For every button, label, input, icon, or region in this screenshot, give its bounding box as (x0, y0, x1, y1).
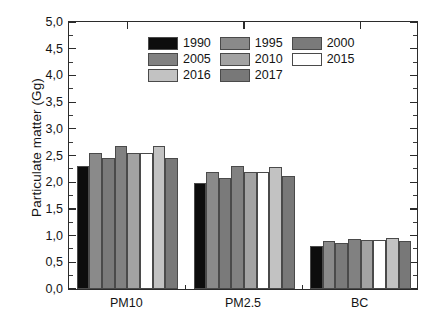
legend-entry[interactable]: 2005 (148, 53, 211, 66)
y-minor-tick-mark (69, 195, 73, 196)
legend-swatch-icon (148, 53, 178, 66)
bar (219, 178, 232, 289)
legend-swatch-icon (220, 69, 250, 82)
y-tick-label: 3,0 (46, 122, 63, 136)
y-tick-mark (69, 75, 76, 76)
y-minor-tick-mark (69, 115, 73, 116)
legend-swatch-icon (220, 53, 250, 66)
legend-entry[interactable]: 1990 (148, 37, 211, 50)
legend-label: 2005 (183, 53, 211, 66)
y-minor-tick-mark (69, 248, 73, 249)
y-tick-label: 1,5 (46, 202, 63, 216)
y-minor-tick-mark-right (413, 222, 417, 223)
bar (257, 172, 270, 289)
y-tick-label: 1,0 (46, 229, 63, 243)
y-minor-tick-mark-right (413, 168, 417, 169)
y-tick-mark (69, 128, 76, 129)
y-minor-tick-mark-right (413, 88, 417, 89)
y-tick-label: 2,5 (46, 149, 63, 163)
y-tick-label: 3,5 (46, 95, 63, 109)
legend-entry[interactable]: 2016 (148, 69, 211, 82)
x-minor-tick-mark (185, 285, 186, 289)
y-minor-tick-mark (69, 88, 73, 89)
y-tick-mark (69, 288, 76, 289)
y-tick-label: 4,0 (46, 68, 63, 82)
y-tick-mark (69, 235, 76, 236)
legend-swatch-icon (292, 37, 322, 50)
bar (373, 240, 386, 289)
bar (77, 166, 90, 289)
y-tick-mark (69, 208, 76, 209)
y-minor-tick-mark (69, 275, 73, 276)
y-minor-tick-mark-right (413, 35, 417, 36)
bar (282, 176, 295, 289)
bar (231, 166, 244, 289)
y-tick-mark (69, 182, 76, 183)
legend-label: 2000 (327, 37, 355, 50)
y-minor-tick-mark-right (413, 248, 417, 249)
bar (335, 243, 348, 289)
y-minor-tick-mark (69, 222, 73, 223)
bar (102, 158, 115, 289)
y-minor-tick-mark (69, 142, 73, 143)
y-tick-label: 4,5 (46, 42, 63, 56)
bar (127, 153, 140, 289)
y-tick-label: 5,0 (46, 15, 63, 29)
legend-swatch-icon (148, 37, 178, 50)
bar (140, 153, 153, 289)
bar (165, 158, 178, 289)
x-tick-label: BC (351, 296, 368, 310)
bar (361, 240, 374, 289)
legend-swatch-icon (148, 69, 178, 82)
legend-entry[interactable]: 1995 (220, 37, 283, 50)
y-minor-tick-mark-right (413, 195, 417, 196)
legend-label: 1990 (183, 37, 211, 50)
legend-entry[interactable]: 2000 (292, 37, 355, 50)
y-minor-tick-mark (69, 62, 73, 63)
legend-swatch-icon (220, 37, 250, 50)
bar (115, 146, 128, 289)
y-tick-mark (69, 262, 76, 263)
bar (399, 241, 412, 289)
bar-chart: Particulate matter (Gg) 0,00,51,01,52,02… (0, 0, 434, 330)
legend-entry[interactable]: 2010 (220, 53, 283, 66)
bar (310, 246, 323, 289)
bar (153, 146, 166, 289)
y-minor-tick-mark (69, 35, 73, 36)
y-axis-title: Particulate matter (Gg) (29, 38, 44, 258)
y-tick-mark (69, 48, 76, 49)
bar (386, 238, 399, 289)
y-minor-tick-mark-right (413, 275, 417, 276)
chart-legend: 19901995200020052010201520162017 (148, 37, 354, 82)
y-tick-label: 2,0 (46, 175, 63, 189)
bar (244, 172, 257, 289)
legend-label: 2016 (183, 69, 211, 82)
bar (348, 239, 361, 289)
bar (194, 183, 207, 289)
legend-label: 2010 (255, 53, 283, 66)
y-tick-mark (69, 21, 76, 22)
legend-entry[interactable]: 2015 (292, 53, 355, 66)
legend-label: 2015 (327, 53, 355, 66)
x-tick-label: PM10 (110, 296, 143, 310)
legend-label: 1995 (255, 37, 283, 50)
y-minor-tick-mark-right (413, 62, 417, 63)
y-tick-label: 0,0 (46, 282, 63, 296)
y-minor-tick-mark-right (413, 142, 417, 143)
x-minor-tick-mark (302, 285, 303, 289)
bar (206, 172, 219, 289)
x-tick-label: PM2.5 (225, 296, 261, 310)
y-minor-tick-mark (69, 168, 73, 169)
bar (89, 153, 102, 289)
legend-label: 2017 (255, 69, 283, 82)
legend-entry[interactable]: 2017 (220, 69, 283, 82)
y-minor-tick-mark-right (413, 115, 417, 116)
bar (269, 167, 282, 289)
y-tick-label: 0,5 (46, 255, 63, 269)
legend-swatch-icon (292, 53, 322, 66)
y-tick-mark (69, 155, 76, 156)
bar (323, 241, 336, 289)
y-tick-mark (69, 102, 76, 103)
